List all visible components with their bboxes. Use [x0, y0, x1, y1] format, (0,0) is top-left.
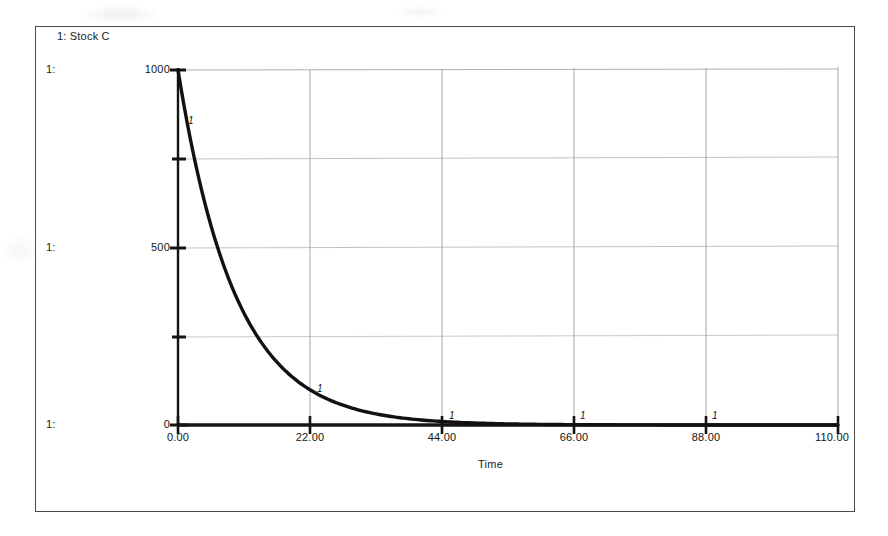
y-tick-label-0: 0 [124, 418, 170, 430]
x-tick-label-0: 0.00 [148, 431, 208, 443]
series-marker-label-1: 1 [188, 115, 194, 126]
x-tick-label-22: 22.00 [280, 431, 340, 443]
series-marker-label-2: 1 [317, 383, 323, 394]
series-marker-label-5: 1 [712, 410, 718, 421]
plot-area [0, 0, 888, 536]
x-tick-label-66: 66.00 [544, 431, 604, 443]
x-tick-label-44: 44.00 [412, 431, 472, 443]
series-marker-label-4: 1 [580, 410, 586, 421]
horizontal-gridlines [178, 69, 838, 337]
y-tick-label-1000: 1000 [124, 63, 170, 75]
x-axis-title: Time [478, 458, 503, 470]
series-marker-label-3: 1 [449, 410, 455, 421]
x-tick-label-110: 110.00 [802, 431, 862, 443]
x-tick-label-88: 88.00 [676, 431, 736, 443]
y-tick-label-500: 500 [124, 241, 170, 253]
